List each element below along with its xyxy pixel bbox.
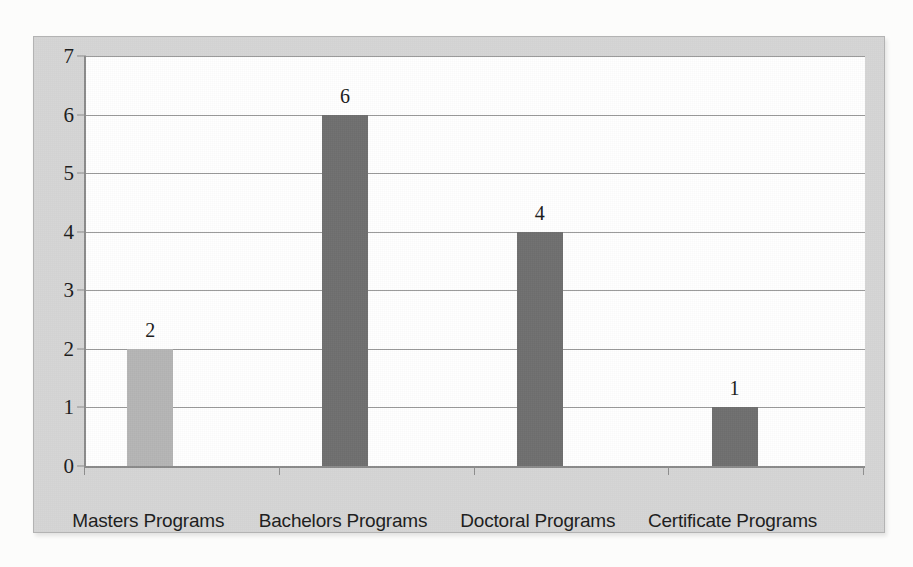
y-axis-tick-label: 3 (64, 278, 75, 303)
gridline (86, 173, 865, 174)
y-tick-mark (77, 407, 86, 408)
bar-value-label: 6 (340, 85, 350, 108)
x-axis-category-label: Doctoral Programs (460, 510, 615, 532)
x-axis-line (84, 466, 865, 468)
bar: 6 (322, 115, 368, 466)
gridline (86, 349, 865, 350)
x-axis-category-label: Certificate Programs (648, 510, 817, 532)
y-axis-tick-label: 2 (64, 336, 75, 361)
y-axis-tick-label: 4 (64, 219, 75, 244)
x-axis-category-label: Masters Programs (72, 510, 224, 532)
bar-value-label: 1 (730, 377, 740, 400)
gridline (86, 115, 865, 116)
y-tick-mark (77, 348, 86, 349)
plot-area: 01234567 2641 (84, 56, 865, 466)
y-axis-tick-label: 1 (64, 395, 75, 420)
gridline (86, 290, 865, 291)
y-axis-tick-label: 6 (64, 102, 75, 127)
y-axis-tick-label: 5 (64, 161, 75, 186)
bar: 4 (517, 232, 563, 466)
x-axis-category-label: Bachelors Programs (259, 510, 428, 532)
bar-value-label: 2 (145, 319, 155, 342)
y-tick-mark (77, 56, 86, 57)
y-tick-mark (77, 114, 86, 115)
x-tick-mark (474, 466, 475, 475)
y-axis-tick-label: 0 (64, 454, 75, 479)
bar: 1 (712, 407, 758, 466)
bar-value-label: 4 (535, 202, 545, 225)
x-tick-mark (668, 466, 669, 475)
y-axis-tick-label: 7 (64, 44, 75, 69)
y-tick-mark (77, 231, 86, 232)
chart-panel: 01234567 2641 Masters ProgramsBachelors … (33, 36, 885, 533)
gridline (86, 56, 865, 57)
y-tick-mark (77, 290, 86, 291)
y-tick-mark (77, 173, 86, 174)
scanned-page: 01234567 2641 Masters ProgramsBachelors … (0, 0, 913, 567)
x-tick-mark (279, 466, 280, 475)
x-tick-mark (84, 466, 85, 475)
bar: 2 (127, 349, 173, 466)
x-tick-mark (863, 466, 864, 475)
gridline (86, 232, 865, 233)
